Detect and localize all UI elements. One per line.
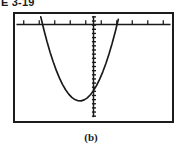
parabola-plot	[15, 14, 172, 121]
plot-area	[15, 14, 172, 121]
subfigure-caption: (b)	[0, 131, 182, 143]
figure-number-label: E 3-19	[1, 0, 35, 8]
graph-viewing-window	[13, 12, 174, 123]
parabola-curve	[41, 17, 119, 101]
